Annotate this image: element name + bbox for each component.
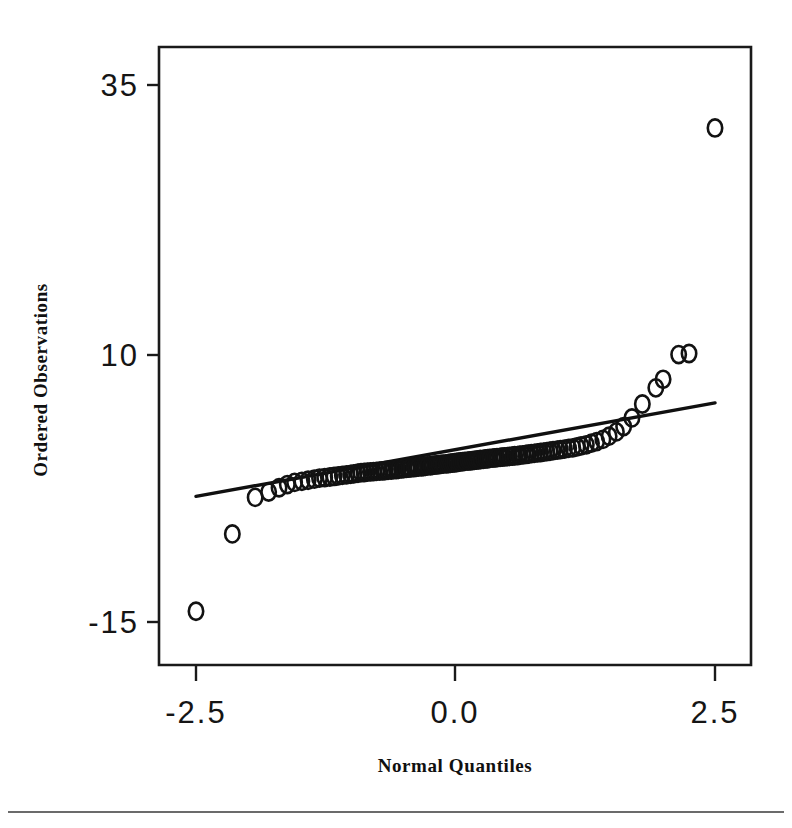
qq-plot-canvas: 35 10 -15 -2.5 0.0 2.5 Normal Quantiles … xyxy=(0,0,792,828)
y-tick-label-10: 10 xyxy=(101,338,139,373)
x-tick-label-minus2p5: -2.5 xyxy=(165,695,226,730)
x-tick-label-2p5: 2.5 xyxy=(690,695,739,730)
y-axis-title: Ordered Observations xyxy=(30,283,51,477)
x-axis-title: Normal Quantiles xyxy=(378,755,533,776)
y-tick-label-minus15: -15 xyxy=(88,605,139,640)
figure-background xyxy=(0,0,792,828)
x-tick-label-0p0: 0.0 xyxy=(430,695,479,730)
y-tick-label-35: 35 xyxy=(101,68,139,103)
qq-plot-figure: 35 10 -15 -2.5 0.0 2.5 Normal Quantiles … xyxy=(0,0,792,828)
